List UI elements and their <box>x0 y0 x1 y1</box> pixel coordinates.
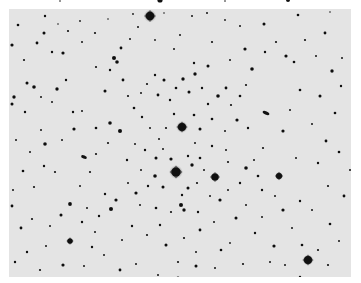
star <box>254 232 256 234</box>
star <box>146 234 148 236</box>
star <box>182 208 185 211</box>
star <box>107 142 109 144</box>
star <box>263 23 266 26</box>
star <box>15 139 17 141</box>
star <box>157 94 160 97</box>
star <box>170 211 172 213</box>
star <box>39 269 41 271</box>
star <box>43 142 47 146</box>
star <box>349 169 351 171</box>
star <box>214 267 216 269</box>
star <box>11 205 14 208</box>
star <box>72 127 75 130</box>
star <box>120 47 123 50</box>
star <box>289 109 291 111</box>
star-field-photograph <box>9 9 351 277</box>
star <box>22 170 25 173</box>
star <box>193 114 196 117</box>
star <box>311 209 313 211</box>
star <box>239 95 242 98</box>
star <box>220 249 223 252</box>
star <box>195 251 197 253</box>
star <box>207 65 210 68</box>
star <box>250 67 254 71</box>
star <box>330 69 333 72</box>
star <box>131 225 133 227</box>
star <box>211 118 214 121</box>
star <box>179 34 181 36</box>
star <box>299 89 302 92</box>
star <box>44 15 46 17</box>
star <box>193 72 196 75</box>
bright-star <box>210 172 220 182</box>
star <box>29 151 31 153</box>
star <box>293 61 296 64</box>
star <box>51 51 53 53</box>
star <box>227 161 229 163</box>
star <box>95 153 97 155</box>
star <box>133 107 136 110</box>
star <box>98 215 100 217</box>
star <box>301 244 304 247</box>
star <box>284 54 287 57</box>
star <box>262 147 264 149</box>
star <box>140 169 142 171</box>
star <box>10 43 13 46</box>
star <box>36 42 39 45</box>
star <box>12 95 15 98</box>
star <box>114 198 117 201</box>
star <box>299 200 301 202</box>
star <box>112 56 116 60</box>
star <box>162 186 165 189</box>
star <box>126 159 128 161</box>
star <box>40 96 42 98</box>
star <box>245 204 247 206</box>
star <box>157 0 162 3</box>
star <box>153 174 157 178</box>
star <box>23 59 25 61</box>
bright-star <box>169 165 183 179</box>
star <box>137 26 139 28</box>
star <box>57 23 59 25</box>
star <box>191 15 193 17</box>
star <box>107 18 109 20</box>
star <box>109 207 113 211</box>
star <box>81 221 83 223</box>
star <box>155 207 158 210</box>
star <box>229 59 231 61</box>
star <box>154 39 156 41</box>
star <box>163 79 166 82</box>
star <box>122 79 125 82</box>
star <box>65 79 67 81</box>
star <box>61 263 64 266</box>
star <box>272 244 275 247</box>
star <box>319 95 322 98</box>
star <box>86 207 88 209</box>
star <box>207 103 209 105</box>
star <box>49 225 51 227</box>
star <box>55 87 58 90</box>
star <box>54 171 56 173</box>
star <box>190 163 193 166</box>
star <box>243 47 246 50</box>
star <box>340 85 342 87</box>
star <box>162 148 164 150</box>
star <box>230 104 232 106</box>
star <box>177 261 179 263</box>
star <box>147 185 149 187</box>
star <box>197 211 199 213</box>
star <box>199 229 202 232</box>
bright-star <box>275 172 283 180</box>
star <box>155 157 158 160</box>
star-field <box>9 9 351 277</box>
star <box>324 32 327 35</box>
star <box>135 263 137 265</box>
star <box>224 0 226 2</box>
star <box>257 175 260 178</box>
star <box>245 84 247 86</box>
star <box>140 92 142 94</box>
star <box>149 127 151 129</box>
star <box>175 87 178 90</box>
star <box>12 189 14 191</box>
star <box>187 155 189 157</box>
